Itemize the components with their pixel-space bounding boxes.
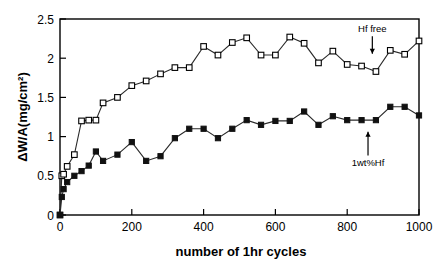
data-point-marker — [230, 126, 235, 131]
plot-frame — [60, 19, 419, 215]
x-axis-label: number of 1hr cycles — [176, 244, 307, 259]
data-point-marker — [158, 154, 163, 159]
series-line — [60, 37, 419, 215]
hf-free-annotation: Hf free — [358, 23, 387, 54]
data-point-marker — [144, 158, 149, 163]
data-point-marker — [416, 113, 421, 118]
data-point-marker — [302, 109, 307, 114]
data-point-marker — [388, 104, 393, 109]
y-axis-label: ΔW/A(mg/cm²) — [15, 72, 30, 162]
data-point-marker — [316, 60, 322, 66]
x-tick-label: 0 — [57, 220, 64, 234]
x-tick-label: 600 — [265, 220, 285, 234]
data-point-marker — [215, 136, 220, 141]
data-point-marker — [86, 117, 92, 123]
data-point-marker — [244, 118, 249, 123]
data-point-marker — [79, 169, 84, 174]
data-point-marker — [330, 48, 336, 54]
annotation-label: 1wt%Hf — [352, 157, 385, 168]
y-tick-label: 1.5 — [37, 91, 54, 105]
y-tick-label: 2.5 — [37, 13, 54, 27]
y-axis-tick-labels: 2.5 2 1.5 1 0.5 0 — [37, 13, 54, 223]
data-point-marker — [416, 38, 422, 44]
data-point-marker — [273, 52, 279, 58]
data-point-marker — [143, 78, 149, 84]
data-point-marker — [402, 104, 407, 109]
data-point-marker — [230, 40, 236, 46]
series-hf-free — [57, 34, 422, 218]
x-axis-tick-labels: 0 200 400 600 800 1000 — [57, 220, 433, 234]
y-tick-label: 0 — [47, 209, 54, 223]
data-point-marker — [61, 171, 67, 177]
data-point-marker — [316, 122, 321, 127]
chart-figure: 2.5 2 1.5 1 0.5 0 0 200 400 600 800 1000… — [0, 0, 444, 272]
annotation-layer: Hf free1wt%Hf — [352, 23, 387, 168]
data-point-marker — [115, 152, 120, 157]
data-point-marker — [172, 65, 178, 71]
data-point-marker — [387, 48, 393, 54]
data-point-marker — [129, 139, 134, 144]
data-point-marker — [57, 212, 62, 217]
data-point-marker — [287, 118, 292, 123]
data-point-marker — [186, 65, 192, 71]
data-point-marker — [93, 117, 99, 123]
data-point-marker — [359, 118, 364, 123]
series-layer — [57, 34, 422, 218]
data-point-marker — [345, 118, 350, 123]
data-point-marker — [187, 126, 192, 131]
data-point-marker — [93, 149, 98, 154]
data-point-marker — [359, 63, 365, 69]
x-axis-ticks — [60, 209, 419, 215]
data-point-marker — [100, 158, 105, 163]
one-wt-pct-hf-annotation: 1wt%Hf — [352, 132, 385, 169]
data-point-marker — [59, 194, 64, 199]
data-point-marker — [64, 164, 70, 170]
data-point-marker — [258, 122, 263, 127]
data-point-marker — [86, 163, 91, 168]
y-tick-label: 0.5 — [37, 169, 54, 183]
data-point-marker — [215, 52, 221, 58]
y-tick-label: 2 — [47, 52, 54, 66]
data-point-marker — [100, 100, 106, 106]
data-point-marker — [258, 52, 264, 58]
data-point-marker — [301, 41, 307, 47]
data-point-marker — [61, 187, 66, 192]
x-tick-label: 800 — [337, 220, 357, 234]
data-point-marker — [72, 173, 77, 178]
data-point-marker — [201, 126, 206, 131]
data-point-marker — [79, 118, 85, 124]
data-point-marker — [402, 51, 408, 57]
data-point-marker — [273, 118, 278, 123]
oxidation-kinetics-chart: 2.5 2 1.5 1 0.5 0 0 200 400 600 800 1000… — [0, 0, 444, 272]
data-point-marker — [330, 114, 335, 119]
data-point-marker — [344, 62, 350, 68]
data-point-marker — [158, 71, 164, 77]
data-point-marker — [244, 35, 250, 41]
y-tick-label: 1 — [47, 130, 54, 144]
data-point-marker — [115, 95, 121, 101]
data-point-marker — [373, 118, 378, 123]
data-point-marker — [65, 179, 70, 184]
annotation-label: Hf free — [358, 23, 387, 34]
data-point-marker — [129, 83, 135, 89]
data-point-marker — [287, 34, 293, 40]
x-tick-label: 400 — [194, 220, 214, 234]
x-tick-label: 1000 — [406, 220, 433, 234]
data-point-marker — [72, 152, 78, 158]
x-tick-label: 200 — [122, 220, 142, 234]
data-point-marker — [373, 69, 379, 75]
data-point-marker — [201, 44, 207, 50]
annotation-arrow-head — [365, 132, 370, 137]
data-point-marker — [172, 136, 177, 141]
annotation-arrow-head — [370, 49, 375, 54]
